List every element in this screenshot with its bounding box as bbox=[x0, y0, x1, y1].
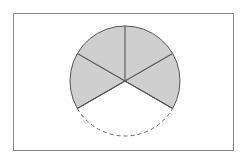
sector-diagram bbox=[0, 0, 242, 163]
diagram-stage bbox=[0, 0, 242, 163]
